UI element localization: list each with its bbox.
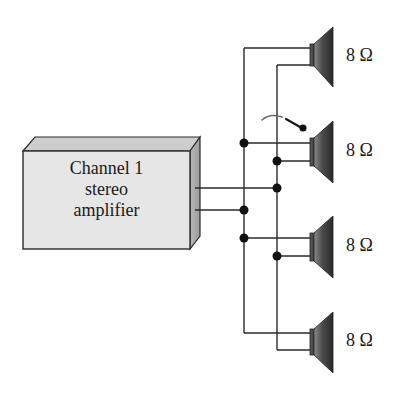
speaker-3-impedance-label: 8 Ω [346,235,373,255]
speaker-icon-cone [314,216,333,278]
junction-dot [240,206,249,215]
speaker-1-impedance-label: 8 Ω [346,45,373,65]
junction-dot [273,184,282,193]
speaker-4 [310,312,333,373]
amplifier-label: Channel 1 stereo amplifier [23,158,190,221]
amplifier-label-line-3: amplifier [23,200,190,221]
speaker-icon-cone [314,27,333,87]
amplifier-side-face [190,137,200,249]
speaker-4-impedance-label: 8 Ω [346,330,373,350]
speaker-icon-cone [314,121,333,183]
speaker-3 [310,216,333,278]
amplifier-top-face [23,137,200,151]
speaker-2 [310,121,333,183]
junction-dot [273,252,282,261]
amplifier-label-line-2: stereo [23,179,190,200]
speaker-1 [310,27,333,87]
junctions [240,139,282,261]
junction-dot [240,234,249,243]
speaker-icon-cone [314,312,333,373]
amplifier-label-line-1: Channel 1 [23,158,190,179]
stray-pen-mark [262,116,307,132]
junction-dot [273,157,282,166]
speaker-2-impedance-label: 8 Ω [346,140,373,160]
junction-dot [240,139,249,148]
wires [195,48,311,350]
